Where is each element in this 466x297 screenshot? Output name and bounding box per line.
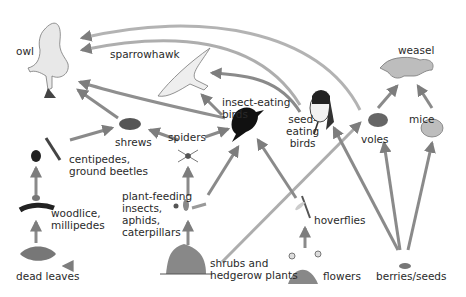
arrow-berries-to-mice — [408, 143, 432, 250]
shrew-icon — [119, 118, 141, 130]
label-shrews: shrews — [115, 136, 152, 148]
label-sparrowhawk: sparrowhawk — [110, 48, 180, 60]
arrow-shrews-to-owl — [78, 90, 118, 118]
woodlouse-millipede-icon — [20, 195, 54, 210]
label-weasel: weasel — [398, 44, 434, 56]
arrow-centipedes-to-shrews — [70, 128, 112, 140]
label-plant-feeding-insects: plant-feeding insects, aphids, caterpill… — [122, 190, 192, 238]
label-flowers: flowers — [323, 270, 361, 282]
label-centipedes-ground-beetles: centipedes, ground beetles — [69, 153, 148, 177]
label-voles: voles — [361, 133, 389, 145]
spider-icon — [178, 150, 198, 162]
label-spiders: spiders — [168, 131, 206, 143]
arrow-spiders-to-insectbirds — [205, 129, 228, 137]
hoverfly-icon — [294, 196, 310, 218]
food-web-diagram — [0, 0, 466, 297]
label-insect-eating-birds: insect-eating birds — [222, 96, 290, 120]
label-owl: owl — [16, 45, 34, 57]
dead-leaves-icon — [20, 247, 56, 261]
label-seed-eating-birds: seed- eating birds — [286, 113, 319, 149]
shrub-icon — [160, 244, 212, 274]
weasel-icon — [380, 57, 433, 78]
label-dead-leaves: dead leaves — [16, 270, 80, 282]
arrow-plantinsects-to-insectbirds — [208, 147, 238, 195]
label-woodlice-millipedes: woodlice, millipedes — [51, 207, 105, 231]
owl-icon — [28, 23, 68, 98]
arrow-mice-to-weasel — [418, 86, 432, 108]
arrow-berries-to-seedbirds — [334, 128, 398, 250]
arrow-voles-to-weasel — [378, 86, 397, 108]
vole-icon — [368, 113, 388, 127]
label-mice: mice — [409, 113, 434, 125]
arrow-berries-to-voles — [384, 143, 400, 250]
berries-icon — [399, 263, 411, 269]
arrow-insectbirds-to-sparrowhawk — [202, 95, 222, 115]
label-hoverflies: hoverflies — [314, 214, 366, 226]
label-shrubs-hedgerow-plants: shrubs and hedgerow plants — [210, 257, 298, 281]
centipede-beetle-icon — [31, 138, 60, 162]
label-berries-seeds: berries/seeds — [376, 270, 447, 282]
